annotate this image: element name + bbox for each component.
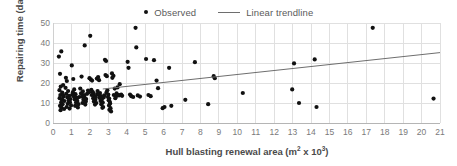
data-point (162, 105, 166, 109)
data-point (90, 79, 94, 83)
data-point (109, 109, 113, 113)
data-point (241, 91, 245, 95)
data-point (67, 107, 71, 111)
data-point (134, 45, 138, 49)
data-point (59, 49, 63, 53)
x-axis-title-end: ) (325, 146, 328, 157)
data-points (57, 26, 436, 114)
data-point (371, 26, 375, 30)
data-point (152, 58, 156, 62)
data-point (113, 96, 117, 100)
data-point (58, 108, 62, 112)
data-point (154, 79, 158, 83)
data-point (431, 97, 435, 101)
data-point (79, 75, 83, 79)
data-point (138, 95, 142, 99)
data-point (313, 57, 317, 61)
data-point (83, 43, 87, 47)
data-point (71, 77, 75, 81)
data-point (97, 78, 101, 82)
data-point (131, 95, 135, 99)
x-axis-title: Hull blasting renewal area (m2 x 103) (53, 146, 441, 157)
data-point (206, 102, 210, 106)
data-point (102, 95, 106, 99)
data-point (126, 60, 130, 64)
data-point (314, 105, 318, 109)
data-point (88, 34, 92, 38)
data-point (83, 103, 87, 107)
data-point (133, 26, 137, 30)
scatter-chart: Observed Linear trendline Repairing time… (0, 0, 457, 166)
data-point (167, 66, 171, 70)
data-point (58, 72, 62, 76)
plot-area (0, 0, 457, 166)
data-point (118, 82, 122, 86)
trendline (103, 53, 440, 89)
data-point (70, 63, 74, 67)
x-axis-title-main: Hull blasting renewal area (m (166, 146, 297, 157)
data-point (292, 61, 296, 65)
data-point (57, 55, 61, 59)
data-point (75, 97, 79, 101)
data-point (193, 60, 197, 64)
data-point (100, 106, 104, 110)
data-point (76, 105, 80, 109)
data-point (105, 74, 109, 78)
data-point (156, 86, 160, 90)
data-point (126, 66, 130, 70)
data-point (290, 87, 294, 91)
data-point (84, 97, 88, 101)
data-point (110, 76, 114, 80)
data-point (120, 94, 124, 98)
data-point (104, 59, 108, 63)
data-point (144, 57, 148, 61)
x-axis-title-mid: x 10 (301, 146, 322, 157)
data-point (169, 104, 173, 108)
data-point (297, 101, 301, 105)
trendline-segment (103, 53, 440, 89)
data-point (65, 79, 69, 83)
data-point (60, 97, 64, 101)
data-point (149, 94, 153, 98)
data-point (183, 98, 187, 102)
data-point (93, 103, 97, 107)
data-point (59, 85, 63, 89)
